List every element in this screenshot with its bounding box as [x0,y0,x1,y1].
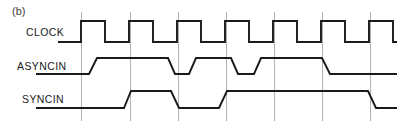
signal-label-syncin: SYNCIN [22,93,64,105]
panel-label: (b) [12,5,25,17]
timing-diagram-canvas: (b) CLOCK ASYNCIN SYNCIN [0,0,399,126]
signal-label-clock: CLOCK [26,26,64,38]
signal-label-asyncin: ASYNCIN [17,60,66,72]
timing-diagram-figure: (b) CLOCK ASYNCIN SYNCIN [0,0,399,126]
